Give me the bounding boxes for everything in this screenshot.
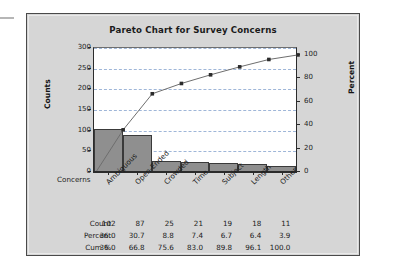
table-cell: 100.0 bbox=[256, 243, 290, 252]
plot-area bbox=[93, 47, 297, 171]
table-row: Count102872521191811 bbox=[55, 219, 355, 231]
y-tick-mark-left bbox=[88, 171, 91, 172]
x-axis-label: Concerns bbox=[57, 175, 90, 184]
table-row: Percent36.030.78.87.46.76.43.9 bbox=[55, 231, 355, 243]
y-tick-label-right: 0 bbox=[304, 167, 308, 175]
summary-table: Count102872521191811Percent36.030.78.87.… bbox=[55, 219, 355, 255]
chart-panel: Pareto Chart for Survey Concerns 0501001… bbox=[26, 13, 360, 256]
line-marker bbox=[267, 58, 271, 62]
table-row: Cum %36.066.875.683.089.896.1100.0 bbox=[55, 243, 355, 255]
y-tick-label-right: 100 bbox=[304, 50, 317, 58]
line-marker bbox=[296, 53, 300, 57]
pareto-chart-figure: Pareto Chart for Survey Concerns 0501001… bbox=[0, 0, 393, 268]
y-axis-right-label: Percent bbox=[347, 61, 356, 94]
line-marker bbox=[121, 128, 125, 132]
cumulative-line bbox=[96, 55, 298, 172]
y-axis-left-label: Counts bbox=[43, 79, 52, 109]
chart-title: Pareto Chart for Survey Concerns bbox=[27, 25, 359, 35]
y-tick-mark-left bbox=[88, 150, 91, 151]
line-marker bbox=[180, 82, 184, 86]
y-axis-left: 050100150200250300 bbox=[51, 47, 91, 171]
cumulative-line-series bbox=[94, 48, 296, 171]
table-cell: 3.9 bbox=[256, 231, 290, 240]
y-tick-mark-left bbox=[88, 109, 91, 110]
line-marker bbox=[209, 73, 213, 77]
y-axis-right: 020406080100 bbox=[297, 47, 337, 171]
x-axis-category-labels: AmbiguousOpen-EndedCrowdedTimeSubjectLen… bbox=[93, 174, 297, 218]
cumulative-line-svg bbox=[94, 48, 298, 172]
line-marker bbox=[150, 92, 154, 96]
stray-page-mark bbox=[0, 17, 14, 19]
y-tick-label-right: 60 bbox=[304, 97, 313, 105]
y-tick-mark-left bbox=[88, 68, 91, 69]
y-tick-label-right: 20 bbox=[304, 144, 313, 152]
y-tick-label-right: 80 bbox=[304, 73, 313, 81]
y-tick-mark-left bbox=[88, 47, 91, 48]
y-tick-mark-left bbox=[88, 130, 91, 131]
line-marker bbox=[238, 65, 242, 69]
y-tick-mark-left bbox=[88, 88, 91, 89]
table-cell: 11 bbox=[256, 219, 290, 228]
y-tick-label-right: 40 bbox=[304, 120, 313, 128]
